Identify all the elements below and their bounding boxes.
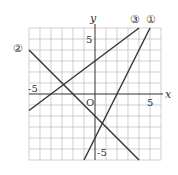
y-label: y	[89, 12, 97, 25]
origin-label: O	[86, 97, 94, 108]
x-tick-neg: -5	[28, 83, 38, 94]
x-tick-pos: 5	[147, 97, 153, 108]
line-3-label: ③	[130, 13, 140, 26]
graph: x y O -5 5 5 -5 ① ② ③	[0, 0, 178, 175]
line-2-label: ②	[13, 42, 23, 55]
y-tick-neg: -5	[97, 147, 107, 158]
x-label: x	[165, 88, 172, 101]
line-1-label: ①	[146, 13, 156, 26]
y-tick-pos: 5	[86, 34, 92, 45]
